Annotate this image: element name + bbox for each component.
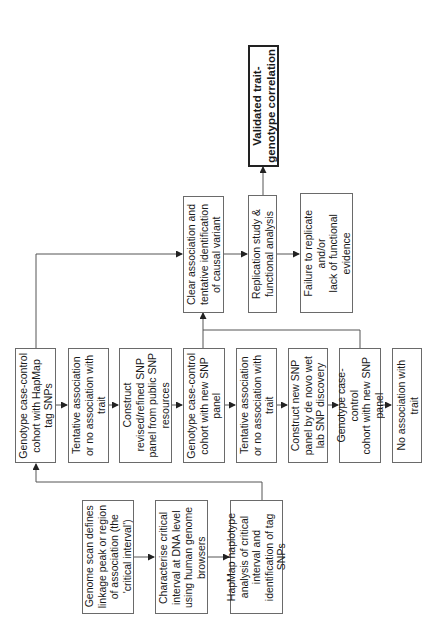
- node-tentative-2-label: Tentative association or no association …: [238, 355, 276, 456]
- node-genotype-new-2-label: Genotype case- control cohort with new S…: [335, 357, 385, 454]
- node-validated: Validated trait- genotype correlation: [248, 45, 279, 167]
- node-tentative-2: Tentative association or no association …: [236, 348, 277, 463]
- node-hapmap-analysis: HapMap haplotype analysis of critical in…: [230, 500, 283, 614]
- node-tentative-1-label: Tentative association or no association …: [70, 355, 108, 456]
- node-construct-denovo: Construct new SNP panel by de novo wet l…: [288, 348, 328, 463]
- node-hapmap-analysis-label: HapMap haplotype analysis of critical in…: [225, 513, 288, 601]
- node-replication: Replication study & functional analysis: [248, 195, 277, 313]
- node-genotype-new-1: Genotype case-control cohort with new SN…: [183, 348, 225, 463]
- node-genotype-new-1-label: Genotype case-control cohort with new SN…: [185, 353, 223, 459]
- node-clear-association: Clear association and tentative identifi…: [183, 196, 224, 313]
- node-genome-scan: Genome scan defines linkage peak or regi…: [82, 500, 134, 614]
- node-failure: Failure to replicate and/or lack of func…: [300, 193, 353, 313]
- node-genotype-new-2: Genotype case- control cohort with new S…: [339, 348, 381, 463]
- node-characterise: Characterise critical interval at DNA le…: [155, 500, 208, 614]
- node-no-association-label: No association with trait: [395, 360, 420, 450]
- node-construct-denovo-label: Construct new SNP panel by de novo wet l…: [289, 356, 327, 455]
- node-construct-refined-label: Construct revised/refined SNP panel from…: [121, 353, 171, 457]
- node-failure-label: Failure to replicate and/or lack of func…: [302, 210, 352, 296]
- node-tentative-1: Tentative association or no association …: [68, 348, 109, 463]
- node-construct-refined: Construct revised/refined SNP panel from…: [119, 348, 172, 463]
- node-validated-label: Validated trait- genotype correlation: [250, 49, 278, 163]
- node-characterise-label: Characterise critical interval at DNA le…: [157, 507, 207, 608]
- connector-lines: [0, 0, 436, 635]
- node-replication-label: Replication study & functional analysis: [250, 209, 275, 299]
- node-no-association: No association with trait: [392, 348, 422, 463]
- node-genotype-hapmap: Genotype case-control cohort with HapMap…: [15, 348, 56, 463]
- node-genotype-hapmap-label: Genotype case-control cohort with HapMap…: [17, 353, 55, 459]
- node-genome-scan-label: Genome scan defines linkage peak or regi…: [83, 505, 133, 608]
- node-clear-association-label: Clear association and tentative identifi…: [185, 204, 223, 305]
